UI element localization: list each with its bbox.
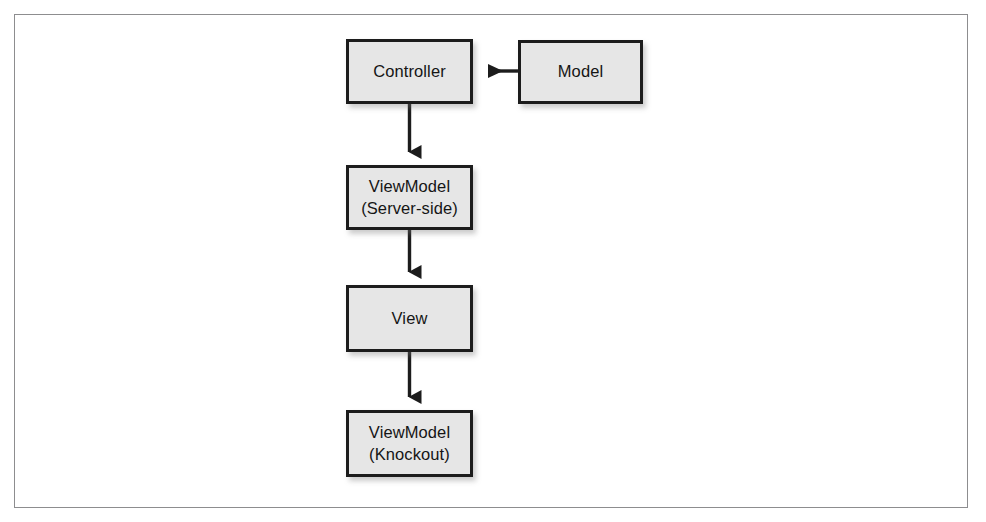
node-viewmodel-server-side-label-line1: ViewModel — [369, 176, 450, 197]
node-model[interactable]: Model — [518, 40, 643, 104]
figure-root: Controller Model ViewModel (Server-side)… — [0, 0, 986, 522]
node-viewmodel-knockout-label-line2: (Knockout) — [369, 444, 450, 465]
node-viewmodel-server-side[interactable]: ViewModel (Server-side) — [346, 165, 473, 230]
node-viewmodel-knockout[interactable]: ViewModel (Knockout) — [346, 410, 473, 477]
node-controller-label-line1: Controller — [373, 61, 446, 82]
node-view-label-line1: View — [392, 308, 428, 329]
node-controller[interactable]: Controller — [346, 39, 473, 104]
node-view[interactable]: View — [346, 285, 473, 352]
connector-layer — [0, 0, 986, 522]
diagram-canvas: Controller Model ViewModel (Server-side)… — [0, 0, 986, 522]
node-model-label-line1: Model — [558, 61, 603, 82]
node-viewmodel-knockout-label-line1: ViewModel — [369, 422, 450, 443]
node-viewmodel-server-side-label-line2: (Server-side) — [361, 198, 458, 219]
